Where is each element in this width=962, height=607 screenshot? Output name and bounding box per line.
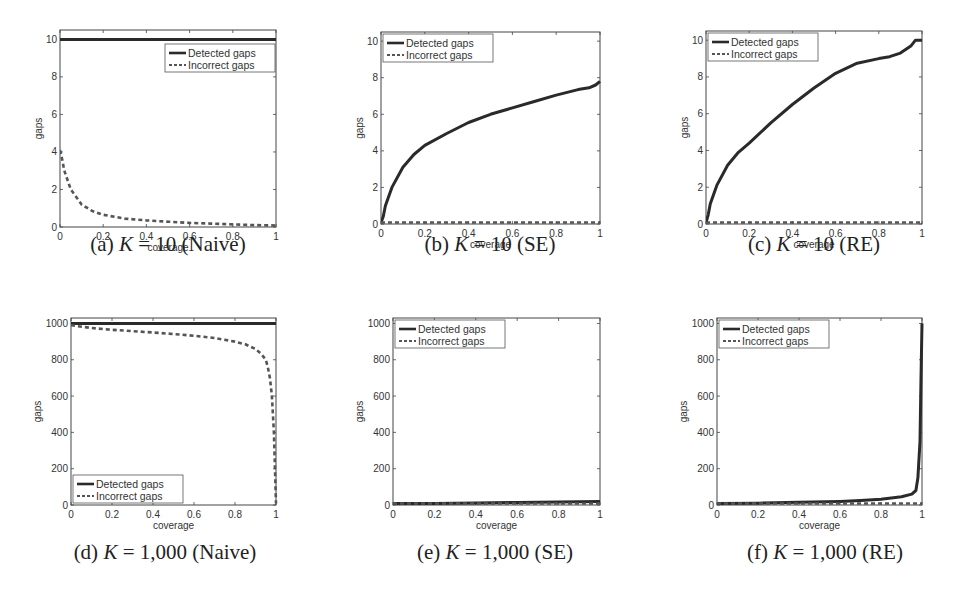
y-tick-label: 10 <box>367 36 379 47</box>
caption-b: (b) K = 10 (SE) <box>370 232 610 257</box>
y-axis-label: gaps <box>32 401 43 423</box>
chart-f: 00.20.40.60.8102004006008001000coverageg… <box>678 318 925 531</box>
x-tick-label: 0.4 <box>792 509 806 520</box>
y-tick-label: 4 <box>372 145 378 156</box>
legend-entry: Detected gaps <box>406 37 474 49</box>
caption-k: K <box>777 232 791 256</box>
legend-entry: Incorrect gaps <box>742 335 809 347</box>
caption-k: K <box>119 232 133 256</box>
x-tick-label: 0.2 <box>427 509 441 520</box>
caption-text: = 1,000 (SE) <box>460 540 573 564</box>
caption-text: = 10 (Naive) <box>133 232 246 256</box>
caption-e: (e) K = 1,000 (SE) <box>360 540 630 565</box>
y-tick-label: 6 <box>51 109 57 120</box>
y-tick-label: 4 <box>51 146 57 157</box>
y-tick-label: 800 <box>697 354 714 365</box>
y-tick-label: 0 <box>62 500 68 511</box>
y-tick-label: 8 <box>697 71 703 82</box>
y-tick-label: 800 <box>373 354 390 365</box>
legend-entry: Incorrect gaps <box>418 335 485 347</box>
x-tick-label: 0.8 <box>552 509 566 520</box>
caption-k: K <box>773 540 787 564</box>
y-tick-label: 0 <box>372 219 378 230</box>
legend-entry: Detected gaps <box>418 323 486 335</box>
legend-entry: Detected gaps <box>96 478 164 490</box>
caption-label: (b) <box>425 232 455 256</box>
y-tick-label: 400 <box>373 427 390 438</box>
y-tick-label: 6 <box>697 108 703 119</box>
y-tick-label: 10 <box>46 34 58 45</box>
y-tick-label: 2 <box>372 182 378 193</box>
x-axis-label: coverage <box>476 520 518 531</box>
y-axis-label: gaps <box>33 118 44 140</box>
x-tick-label: 0.2 <box>105 509 119 520</box>
chart-e: 00.20.40.60.8102004006008001000coverageg… <box>354 318 603 531</box>
y-tick-label: 0 <box>708 500 714 511</box>
legend-entry: Incorrect gaps <box>96 490 163 502</box>
x-tick-label: 0.6 <box>510 509 524 520</box>
y-tick-label: 1000 <box>46 318 69 329</box>
caption-d: (d) K = 1,000 (Naive) <box>20 540 310 565</box>
incorrect-gaps-line <box>60 150 276 225</box>
y-tick-label: 600 <box>51 391 68 402</box>
y-tick-label: 400 <box>51 427 68 438</box>
x-axis-label: coverage <box>153 520 195 531</box>
y-axis-label: gaps <box>354 401 365 423</box>
x-tick-label: 1 <box>919 509 925 520</box>
x-tick-label: 0.4 <box>146 509 160 520</box>
y-tick-label: 2 <box>697 182 703 193</box>
legend: Detected gapsIncorrect gaps <box>73 475 183 503</box>
y-tick-label: 0 <box>384 500 390 511</box>
caption-k: K <box>103 540 117 564</box>
legend-entry: Incorrect gaps <box>406 49 473 61</box>
caption-f: (f) K = 1,000 (RE) <box>690 540 960 565</box>
legend: Detected gapsIncorrect gaps <box>383 34 493 62</box>
legend-entry: Detected gaps <box>731 36 799 48</box>
y-tick-label: 0 <box>51 222 57 233</box>
caption-text: = 1,000 (Naive) <box>117 540 256 564</box>
x-tick-label: 0.2 <box>751 509 765 520</box>
y-tick-label: 0 <box>697 219 703 230</box>
chart-d: 00.20.40.60.8102004006008001000coverageg… <box>32 318 279 531</box>
y-tick-label: 10 <box>692 35 704 46</box>
caption-text: = 10 (SE) <box>468 232 555 256</box>
caption-k: K <box>454 232 468 256</box>
caption-label: (d) <box>74 540 104 564</box>
x-tick-label: 0 <box>390 509 396 520</box>
y-tick-label: 200 <box>697 463 714 474</box>
y-tick-label: 400 <box>697 427 714 438</box>
legend: Detected gapsIncorrect gaps <box>165 44 275 72</box>
caption-label: (a) <box>90 232 119 256</box>
x-tick-label: 0.6 <box>187 509 201 520</box>
legend-entry: Incorrect gaps <box>731 48 798 60</box>
y-axis-label: gaps <box>679 117 690 139</box>
y-tick-label: 8 <box>372 72 378 83</box>
legend-entry: Detected gaps <box>742 323 810 335</box>
caption-text: = 10 (RE) <box>791 232 880 256</box>
figure-svg: 00.20.40.60.810246810coveragegapsDetecte… <box>0 0 962 607</box>
legend: Detected gapsIncorrect gaps <box>395 320 505 348</box>
y-axis-label: gaps <box>678 401 689 423</box>
x-tick-label: 0 <box>714 509 720 520</box>
y-tick-label: 1000 <box>368 318 391 329</box>
detected-gaps-line <box>381 81 600 222</box>
x-tick-label: 1 <box>273 509 279 520</box>
x-tick-label: 0.8 <box>874 509 888 520</box>
legend-entry: Incorrect gaps <box>188 59 255 71</box>
legend: Detected gapsIncorrect gaps <box>719 320 829 348</box>
caption-label: (e) <box>417 540 446 564</box>
chart-b: 00.20.40.60.810246810coveragegapsDetecte… <box>354 32 603 250</box>
detected-gaps-line <box>706 40 922 222</box>
caption-a: (a) K = 10 (Naive) <box>48 232 288 257</box>
chart-a: 00.20.40.60.810246810coveragegapsDetecte… <box>33 30 279 253</box>
caption-c: (c) K = 10 (RE) <box>694 232 934 257</box>
chart-c: 00.20.40.60.810246810coveragegapsDetecte… <box>679 31 925 250</box>
y-tick-label: 200 <box>373 463 390 474</box>
y-tick-label: 600 <box>373 391 390 402</box>
y-axis-label: gaps <box>354 117 365 139</box>
legend-entry: Detected gaps <box>188 47 256 59</box>
y-tick-label: 800 <box>51 354 68 365</box>
y-tick-label: 4 <box>697 145 703 156</box>
x-tick-label: 0.8 <box>228 509 242 520</box>
caption-label: (f) <box>747 540 773 564</box>
